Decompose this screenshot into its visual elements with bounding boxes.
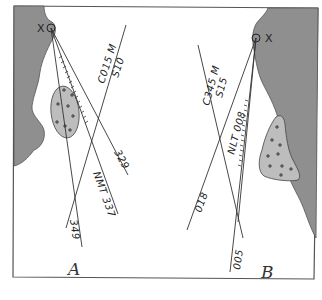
- panel-label-b: B: [260, 262, 274, 282]
- coastline-a: [14, 6, 55, 166]
- bearing-nmt-337-label: NMT 337: [91, 170, 118, 219]
- panel-b: X C345 M S15 NLT 008 018 005 B: [187, 8, 318, 282]
- object-label-a: X: [37, 22, 45, 35]
- clearing-bearing-diagram: X C015 M S10 329 NMT 337 349 A: [0, 0, 322, 300]
- bearing-329-label: 329: [112, 148, 131, 171]
- panel-a: X C015 M S10 329 NMT 337 349 A: [14, 6, 132, 279]
- bearing-349-line: [51, 28, 82, 247]
- object-label-b: X: [265, 32, 273, 45]
- bearing-349-label: 349: [68, 219, 82, 241]
- shoal-a: [48, 85, 81, 140]
- panel-label-a: A: [66, 259, 80, 279]
- coastline-b: [253, 8, 318, 238]
- bearing-005-label: 005: [231, 248, 245, 270]
- bearing-018-label: 018: [193, 191, 210, 214]
